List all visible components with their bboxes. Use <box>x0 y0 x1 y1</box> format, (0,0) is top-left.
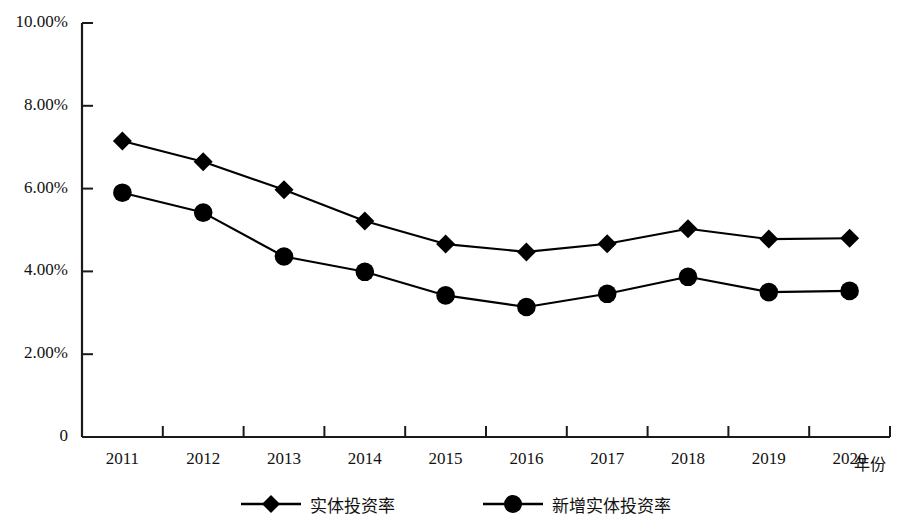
chart-series-group <box>113 132 859 317</box>
circle-marker-icon <box>481 493 545 515</box>
data-point-diamond[interactable] <box>840 229 859 248</box>
x-tick-label: 2012 <box>163 449 243 469</box>
y-tick-label: 0 <box>60 426 69 446</box>
series-line <box>122 193 849 307</box>
x-tick-label: 2014 <box>325 449 405 469</box>
x-tick-label: 2011 <box>82 449 162 469</box>
x-tick-label: 2018 <box>648 449 728 469</box>
chart-plot-area <box>0 0 909 521</box>
x-tick-label: 2019 <box>729 449 809 469</box>
chart-container: 10.00%8.00%6.00%4.00%2.00%0 201120122013… <box>0 0 909 521</box>
data-point-circle[interactable] <box>679 268 698 287</box>
data-point-circle[interactable] <box>194 203 213 222</box>
y-tick-label: 2.00% <box>24 343 68 363</box>
y-tick-label: 4.00% <box>24 260 68 280</box>
data-point-circle[interactable] <box>113 183 132 202</box>
y-tick-label: 8.00% <box>24 95 68 115</box>
data-point-circle[interactable] <box>356 263 375 282</box>
x-axis-title: 年份 <box>854 451 886 475</box>
data-point-circle[interactable] <box>517 298 536 317</box>
y-tick-label: 6.00% <box>24 178 68 198</box>
y-tick-label: 10.00% <box>16 12 68 32</box>
data-point-diamond[interactable] <box>355 211 374 230</box>
data-point-diamond[interactable] <box>436 235 455 254</box>
legend-item-new-entity-investment-rate[interactable]: 新增实体投资率 <box>481 492 671 517</box>
data-point-diamond[interactable] <box>517 242 536 261</box>
data-point-circle[interactable] <box>275 247 294 266</box>
x-tick-label: 2015 <box>406 449 486 469</box>
chart-series-2 <box>113 183 859 316</box>
series-line <box>122 141 849 252</box>
legend-item-entity-investment-rate[interactable]: 实体投资率 <box>239 492 395 517</box>
data-point-circle[interactable] <box>760 283 779 302</box>
chart-series-1 <box>113 132 859 262</box>
chart-legend: 实体投资率 新增实体投资率 <box>0 487 909 521</box>
x-tick-label: 2016 <box>486 449 566 469</box>
legend-label-1: 新增实体投资率 <box>552 492 671 517</box>
legend-label-0: 实体投资率 <box>310 492 395 517</box>
data-point-diamond[interactable] <box>679 219 698 238</box>
data-point-circle[interactable] <box>598 285 617 304</box>
data-point-circle[interactable] <box>840 282 859 301</box>
data-point-circle[interactable] <box>436 286 455 305</box>
data-point-diamond[interactable] <box>759 230 778 249</box>
x-tick-label: 2017 <box>567 449 647 469</box>
data-point-diamond[interactable] <box>275 180 294 199</box>
diamond-marker-icon <box>239 493 303 515</box>
data-point-diamond[interactable] <box>113 132 132 151</box>
x-tick-label: 2013 <box>244 449 324 469</box>
data-point-diamond[interactable] <box>598 234 617 253</box>
data-point-diamond[interactable] <box>194 152 213 171</box>
